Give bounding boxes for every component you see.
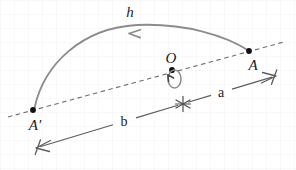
- label-segment-a: a: [218, 85, 225, 100]
- label-h: h: [126, 4, 134, 20]
- figure-container: h A A' O: [0, 0, 296, 170]
- point-A-prime: [30, 107, 36, 113]
- label-A-prime: A': [28, 117, 42, 133]
- geometry-diagram-svg: h A A' O: [0, 0, 296, 170]
- label-segment-b: b: [121, 114, 128, 129]
- point-A: [246, 48, 252, 54]
- label-A: A: [247, 57, 258, 73]
- label-O: O: [166, 50, 177, 66]
